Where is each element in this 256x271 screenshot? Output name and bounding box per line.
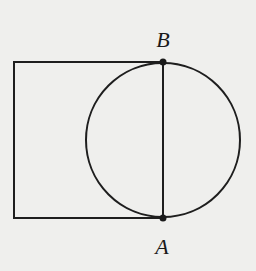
- rectangle: [14, 62, 163, 218]
- point-b: [160, 59, 167, 66]
- point-a: [160, 215, 167, 222]
- geometry-diagram: B A: [0, 0, 256, 271]
- label-b: B: [156, 27, 169, 52]
- label-a: A: [153, 234, 169, 259]
